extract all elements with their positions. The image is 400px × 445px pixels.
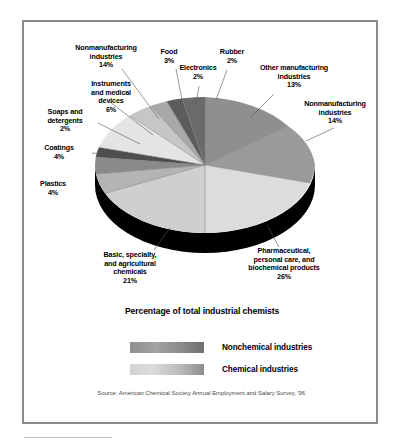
slice-label-nonmanufacturing-industries: Nonmanufacturing industries 14%: [292, 100, 378, 126]
legend-label-nonchemical-industries: Nonchemical industries: [222, 343, 312, 352]
slice-label-soaps-and-detergents: Soaps and detergents 2%: [32, 108, 98, 134]
source-note: Source: American Chemical Society Annual…: [24, 390, 380, 396]
legend-swatch-chemical-industries: [130, 364, 204, 375]
chart-legend: Nonchemical industries Chemical industri…: [130, 340, 360, 384]
slice-label-other-manufacturing-industries: Other manufacturing industries 13%: [246, 64, 342, 90]
chart-title: Percentage of total industrial chemists: [24, 306, 380, 316]
legend-item-nonchemical-industries: Nonchemical industries: [130, 340, 360, 354]
legend-label-chemical-industries: Chemical industries: [222, 365, 298, 374]
slice-label-electronics: Electronics 2%: [170, 64, 226, 81]
pie-chart: Nonmanufacturing industries 14% Food 3% …: [24, 22, 380, 272]
legend-item-chemical-industries: Chemical industries: [130, 362, 360, 376]
legend-swatch-nonchemical-industries: [130, 342, 204, 353]
slice-label-plastics: Plastics 4%: [26, 180, 80, 197]
slice-label-rubber: Rubber 2%: [210, 48, 254, 65]
slice-label-coatings: Coatings 4%: [30, 144, 88, 161]
slice-label-pharmaceutical-personal-care-and-biochemical-products: Pharmaceutical, personal care, and bioch…: [232, 247, 336, 281]
footer-rule: [24, 437, 112, 438]
slice-label-basic-specialty-and-agricultural-chemicals: Basic, specialty, and agricultural chemi…: [84, 251, 176, 285]
slice-label-petroleum-and-natural-gas: Nonmanufacturing industries 14%: [64, 44, 148, 70]
figure-frame: Nonmanufacturing industries 14% Food 3% …: [22, 20, 378, 424]
